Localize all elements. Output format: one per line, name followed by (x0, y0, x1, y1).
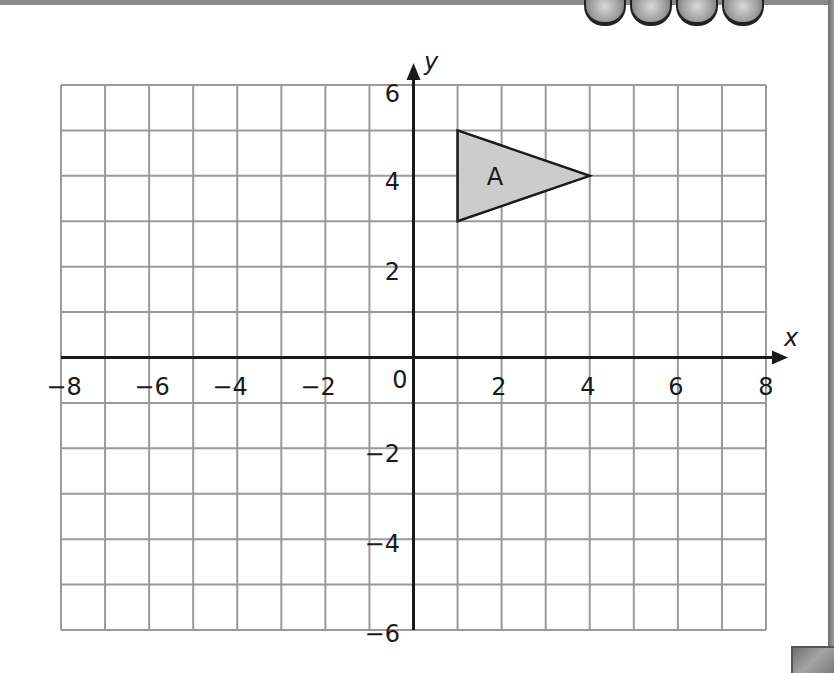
x-tick-label: 8 (758, 373, 773, 401)
y-tick-label: −6 (365, 620, 400, 648)
y-tick-label: 6 (385, 80, 400, 108)
y-tick-label: −4 (365, 530, 400, 558)
y-axis-arrow-icon (407, 63, 421, 80)
coordinate-grid-chart: A x y −8 −6 −4 −2 0 2 4 6 8 6 4 2 −2 −4 … (0, 0, 834, 673)
x-axis-label: x (783, 324, 799, 352)
y-tick-label: −2 (365, 440, 400, 468)
triangle-a (458, 130, 590, 221)
x-tick-label: −8 (46, 373, 81, 401)
origin-label: 0 (392, 366, 407, 394)
x-tick-label: −4 (212, 373, 247, 401)
y-axis-label: y (423, 48, 439, 76)
x-tick-label: 2 (491, 373, 506, 401)
triangle-a-label: A (487, 163, 504, 191)
x-tick-label: −2 (300, 373, 335, 401)
x-tick-label: −6 (134, 373, 169, 401)
x-tick-label: 6 (668, 373, 683, 401)
x-tick-label: 4 (580, 373, 595, 401)
y-tick-label: 4 (385, 168, 400, 196)
y-tick-label: 2 (385, 258, 400, 286)
x-axis-arrow-icon (772, 351, 788, 365)
